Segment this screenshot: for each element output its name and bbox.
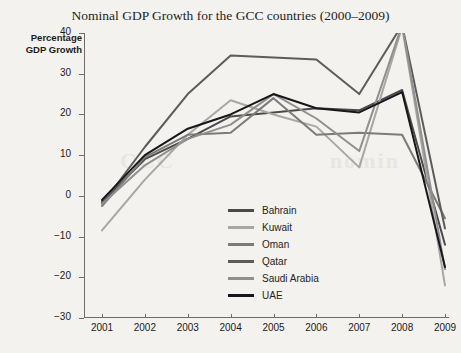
legend-item-qatar[interactable]: Qatar: [228, 253, 363, 270]
y-axis-tick-label: 10: [60, 148, 71, 159]
line-series-oman: [102, 98, 445, 218]
legend-item-label: Saudi Arabia: [262, 273, 319, 284]
legend-item-label: Bahrain: [262, 205, 296, 216]
legend-item-saudi-arabia[interactable]: Saudi Arabia: [228, 270, 363, 287]
legend-swatch-icon: [228, 260, 254, 263]
x-axis-tick-label: 2007: [348, 322, 370, 333]
y-axis-tick-label: 20: [60, 107, 71, 118]
y-axis-tick-label: 40: [60, 26, 71, 37]
legend-swatch-icon: [228, 277, 254, 280]
legend-swatch-icon: [228, 243, 254, 246]
y-axis-label: Percentage GDP Growth: [14, 32, 82, 55]
legend-item-bahrain[interactable]: Bahrain: [228, 202, 363, 219]
x-axis-tick-label: 2002: [134, 322, 156, 333]
legend-item-label: Qatar: [262, 256, 287, 267]
x-axis-tick-label: 2008: [391, 322, 413, 333]
legend-item-kuwait[interactable]: Kuwait: [228, 219, 363, 236]
y-axis-tick-label: −20: [54, 270, 71, 281]
y-axis-tick: −30: [79, 318, 84, 319]
y-axis-tick-label: −10: [54, 230, 71, 241]
x-axis-tick-label: 2001: [91, 322, 113, 333]
legend-item-uae[interactable]: UAE: [228, 287, 363, 304]
legend-swatch-icon: [228, 226, 254, 229]
y-axis-label-line-1: Percentage: [14, 32, 82, 44]
legend-item-label: UAE: [262, 290, 283, 301]
chart-figure: GCC nomin Nominal GDP Growth for the GCC…: [0, 0, 461, 353]
x-axis-tick-label: 2005: [262, 322, 284, 333]
line-series-qatar: [102, 33, 445, 228]
chart-title: Nominal GDP Growth for the GCC countries…: [0, 8, 461, 24]
chart-legend: BahrainKuwaitOmanQatarSaudi ArabiaUAE: [228, 202, 363, 304]
legend-swatch-icon: [228, 209, 254, 212]
x-axis-tick-label: 2009: [434, 322, 456, 333]
y-axis-tick-label: −30: [54, 311, 71, 322]
x-axis-tick-label: 2006: [305, 322, 327, 333]
legend-item-label: Oman: [262, 239, 289, 250]
legend-swatch-icon: [228, 294, 254, 297]
x-axis-tick-label: 2004: [220, 322, 242, 333]
x-axis-tick-label: 2003: [177, 322, 199, 333]
legend-item-label: Kuwait: [262, 222, 292, 233]
y-axis-tick-label: 30: [60, 67, 71, 78]
y-axis-label-line-2: GDP Growth: [14, 44, 82, 56]
y-axis-tick-label: 0: [65, 189, 71, 200]
legend-item-oman[interactable]: Oman: [228, 236, 363, 253]
